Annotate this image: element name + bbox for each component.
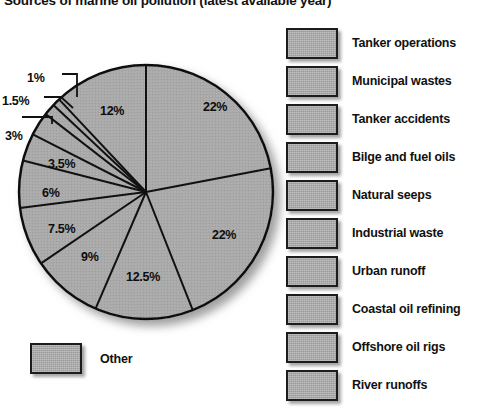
- legend-swatch: [286, 28, 338, 59]
- chart-legend: Tanker operations Municipal wastes Tanke…: [286, 24, 500, 404]
- legend-swatch: [286, 256, 338, 287]
- legend-label: Municipal wastes: [352, 74, 452, 88]
- legend-swatch: [286, 66, 338, 97]
- legend-item: Urban runoff: [286, 252, 500, 290]
- legend-label: River runoffs: [352, 378, 427, 392]
- legend-label: Bilge and fuel oils: [352, 150, 455, 164]
- legend-item: Bilge and fuel oils: [286, 138, 500, 176]
- legend-label: Coastal oil refining: [352, 302, 461, 316]
- legend-swatch-other: [30, 343, 82, 374]
- pie-label-9: 1%: [27, 71, 44, 85]
- pie-label-5: 6%: [42, 186, 59, 200]
- pie-label-6: 3.5%: [48, 157, 75, 171]
- legend-item: Industrial waste: [286, 214, 500, 252]
- legend-item: Municipal wastes: [286, 62, 500, 100]
- legend-swatch: [286, 180, 338, 211]
- legend-label: Industrial waste: [352, 226, 443, 240]
- legend-swatch: [286, 104, 338, 135]
- legend-swatch: [286, 370, 338, 401]
- pie-label-1: 22%: [212, 228, 236, 242]
- legend-label: Tanker operations: [352, 36, 456, 50]
- legend-label: Natural seeps: [352, 188, 431, 202]
- legend-item: Tanker operations: [286, 24, 500, 62]
- legend-label: Urban runoff: [352, 264, 425, 278]
- legend-item: Tanker accidents: [286, 100, 500, 138]
- legend-swatch: [286, 218, 338, 249]
- pie-chart: 22% 22% 12.5% 9% 7.5% 6% 3.5% 3% 1.5% 1%…: [0, 0, 300, 340]
- pie-label-7: 3%: [5, 129, 22, 143]
- legend-label: Offshore oil rigs: [352, 340, 445, 354]
- legend-swatch: [286, 294, 338, 325]
- legend-item: Coastal oil refining: [286, 290, 500, 328]
- pie-label-8: 1.5%: [2, 94, 29, 108]
- legend-label-other: Other: [100, 352, 132, 366]
- legend-item: Natural seeps: [286, 176, 500, 214]
- pie-label-10: 12%: [100, 104, 124, 118]
- pie-label-4: 7.5%: [48, 222, 75, 236]
- pie-label-2: 12.5%: [126, 270, 160, 284]
- legend-swatch: [286, 142, 338, 173]
- legend-item: Offshore oil rigs: [286, 328, 500, 366]
- legend-item: River runoffs: [286, 366, 500, 404]
- legend-label: Tanker accidents: [352, 112, 450, 126]
- pie-chart-svg: [0, 0, 300, 340]
- pie-label-3: 9%: [81, 250, 98, 264]
- pie-label-0: 22%: [203, 100, 227, 114]
- legend-swatch: [286, 332, 338, 363]
- legend-item-other: Other: [30, 343, 132, 374]
